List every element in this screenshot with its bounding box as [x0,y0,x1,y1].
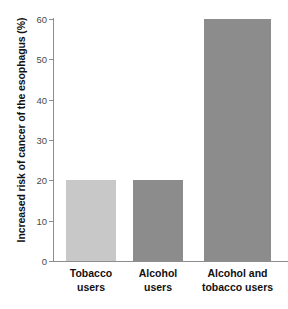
plot-area: 0102030405060 [53,18,288,262]
tick-mark [49,261,53,262]
category-label-line: tobacco users [188,280,287,294]
bar-chart: Increased risk of cancer of the esophagu… [0,0,288,309]
tick-mark [49,180,53,181]
tick-mark [49,140,53,141]
tick-mark [49,59,53,60]
y-tick-label: 50 [36,54,47,65]
tick-mark [49,19,53,20]
y-axis-line [53,18,54,262]
category-label-line: Alcohol [117,266,199,280]
category-label-2: Alcoholusers [117,266,199,294]
tick-mark [49,100,53,101]
category-label-line: users [117,280,199,294]
bar-1 [66,180,116,261]
y-tick-label: 40 [36,94,47,105]
y-tick-label: 20 [36,175,47,186]
x-axis-line [53,261,288,262]
y-tick-label: 10 [36,215,47,226]
bar-3 [204,19,271,261]
category-label-3: Alcohol andtobacco users [188,266,287,294]
y-tick-label: 0 [42,256,47,267]
y-tick-label: 60 [36,14,47,25]
category-label-line: Alcohol and [188,266,287,280]
y-tick-label: 30 [36,135,47,146]
y-axis-title: Increased risk of cancer of the esophagu… [13,5,29,255]
tick-mark [49,221,53,222]
bar-2 [133,180,183,261]
